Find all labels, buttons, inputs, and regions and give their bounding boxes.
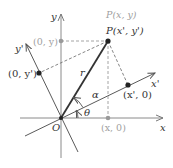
point-xprime-0 [125, 82, 130, 87]
point-x-0 [106, 116, 111, 121]
point-0-y-label: (0, y) [33, 36, 58, 47]
origin-point [59, 116, 63, 120]
x-axis-label: x [160, 122, 166, 133]
rotation-of-axes-diagram: y x y' x' O P(x, y) P(x', y') (0, y) (x,… [0, 0, 173, 168]
point-old-label: P(x, y) [105, 9, 137, 20]
alpha-arc [74, 98, 84, 108]
point-x-0-label: (x, 0) [101, 122, 126, 133]
x-prime-axis-label: x' [151, 78, 159, 89]
y-prime-axis [26, 44, 78, 152]
point-xprime-0-label: (x', 0) [123, 89, 152, 100]
origin-label: O [52, 122, 60, 133]
point-p [105, 38, 110, 43]
point-new-label: P(x', y') [105, 25, 144, 36]
y-axis-label: y [50, 11, 57, 22]
radius-label: r [80, 67, 86, 78]
point-0-yprime-label: (0, y') [8, 68, 37, 79]
point-0-yprime [36, 70, 41, 75]
point-0-y [59, 39, 64, 44]
dashed-to-xprime0 [108, 41, 128, 85]
y-prime-axis-label: y' [14, 43, 23, 54]
alpha-label: α [92, 89, 99, 100]
theta-label: θ [84, 107, 90, 118]
theta-arc [76, 111, 78, 118]
